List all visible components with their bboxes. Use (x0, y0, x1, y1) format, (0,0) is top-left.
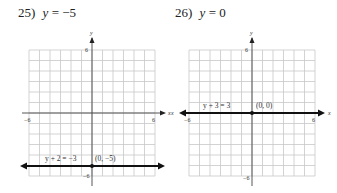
x-max-label: 6 (152, 117, 155, 123)
y-max-label: 6 (85, 47, 88, 53)
x-min-label: −6 (24, 117, 30, 123)
y-axis-label: y (89, 30, 93, 36)
line-arrow-right-icon (158, 163, 165, 170)
line-equation-label: y + 2 = −3 (45, 154, 77, 163)
y-axis-arrow-icon (90, 37, 95, 43)
x-min-label: −6 (184, 117, 190, 123)
graph-25: x y −6 6 6 −6 y + 2 = −3 (0, −5) (20, 30, 171, 186)
graph-26: y x x −6 6 6 −6 y + 3 = 3 (0, 0) (170, 30, 331, 186)
line-arrow-left-icon (179, 110, 186, 117)
y-min-label: −6 (83, 173, 89, 179)
intercept-point (250, 111, 254, 115)
line-equation-label: y + 3 = 3 (203, 101, 230, 110)
x-axis-label-left: x (170, 110, 174, 116)
x-axis-label: x (327, 110, 331, 116)
point-label: (0, −5) (95, 154, 116, 163)
y-axis-label: y (249, 30, 253, 36)
x-max-label: 6 (312, 117, 315, 123)
intercept-point (90, 164, 94, 168)
y-max-label: 6 (245, 47, 248, 53)
line-arrow-right-icon (318, 110, 325, 117)
y-axis-arrow-icon (250, 37, 255, 43)
line-arrow-left-icon (20, 163, 27, 170)
y-min-label: −6 (243, 175, 249, 181)
graphs-canvas: x y −6 6 6 −6 y + 2 = −3 (0, −5) y x x −… (0, 0, 337, 193)
x-axis-arrow-icon (160, 111, 166, 116)
point-label: (0, 0) (256, 101, 273, 110)
